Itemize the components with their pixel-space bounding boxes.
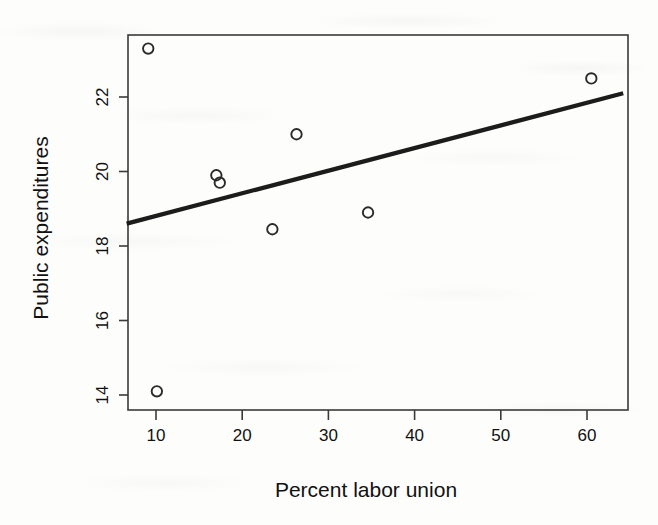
chart-screenshot: 22 20 18 16 14 Public expenditures 10 20…	[0, 0, 658, 525]
y-tick-label-16: 16	[93, 311, 112, 330]
x-tick-label-60: 60	[578, 426, 597, 445]
x-tick-label-50: 50	[491, 426, 510, 445]
data-point	[143, 43, 153, 53]
data-point	[586, 73, 596, 83]
y-tick-label-20: 20	[93, 162, 112, 181]
data-point	[291, 129, 301, 139]
regression-line	[127, 93, 624, 223]
x-tick-label-30: 30	[319, 426, 338, 445]
y-tick-label-18: 18	[93, 237, 112, 256]
y-axis: 22 20 18 16 14 Public expenditures	[29, 88, 128, 405]
data-point	[152, 386, 162, 396]
y-tick-label-22: 22	[93, 88, 112, 107]
x-tick-label-40: 40	[405, 426, 424, 445]
scatter-plot: 22 20 18 16 14 Public expenditures 10 20…	[0, 0, 658, 525]
data-points-layer	[143, 43, 596, 396]
data-point	[267, 224, 277, 234]
y-axis-title: Public expenditures	[29, 136, 52, 319]
x-tick-label-20: 20	[233, 426, 252, 445]
data-point	[363, 207, 373, 217]
x-axis-title: Percent labor union	[275, 478, 457, 501]
x-tick-label-10: 10	[147, 426, 166, 445]
y-tick-label-14: 14	[93, 386, 112, 405]
x-axis: 10 20 30 40 50 60 Percent labor union	[147, 410, 597, 501]
plot-frame	[128, 35, 628, 410]
